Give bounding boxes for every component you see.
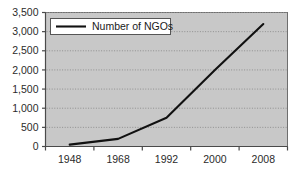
y-tick-label: 2,500 [12,44,38,56]
legend-label-number-of-ngos: Number of NGOs [92,20,173,32]
x-tick-label: 1992 [155,153,179,165]
x-tick-label: 2000 [203,153,227,165]
chart-container: 05001,0001,5002,0002,5003,0003,500 19481… [0,0,301,180]
x-tick-label: 1968 [106,153,130,165]
y-tick-label: 2,000 [12,64,38,76]
y-tick-label: 1,500 [12,83,38,95]
legend: Number of NGOs [51,19,174,35]
ngo-line-chart: 05001,0001,5002,0002,5003,0003,500 19481… [0,0,301,180]
y-tick-label: 0 [33,140,39,152]
x-axis-ticks: 19481968199220002008 [46,147,288,165]
y-tick-label: 3,000 [12,25,38,37]
x-tick-label: 2008 [252,153,276,165]
y-tick-label: 1,000 [12,102,38,114]
x-tick-label: 1948 [58,153,82,165]
y-tick-label: 500 [21,121,39,133]
y-tick-label: 3,500 [12,6,38,18]
y-axis-ticks: 05001,0001,5002,0002,5003,0003,500 [12,6,45,152]
